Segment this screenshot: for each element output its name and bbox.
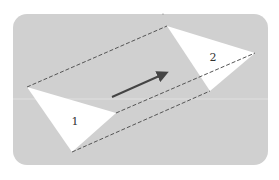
tick-mark bbox=[162, 13, 163, 14]
translation-diagram: 1 2 bbox=[0, 0, 279, 180]
background-panel bbox=[13, 14, 268, 165]
triangle-2-label: 2 bbox=[210, 51, 217, 64]
triangle-1-label: 1 bbox=[72, 115, 79, 128]
